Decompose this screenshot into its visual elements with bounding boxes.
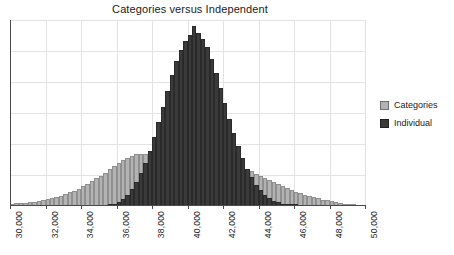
x-axis-tick-label: 50,000 — [369, 211, 379, 238]
x-axis-tick-mark — [188, 205, 189, 209]
gridline-vertical — [365, 20, 366, 206]
legend-label-categories: Categories — [394, 100, 438, 110]
x-axis-tick-mark — [46, 205, 47, 209]
x-axis-tick-label: 30,000 — [14, 211, 24, 238]
gridline-vertical — [294, 20, 295, 206]
legend-swatch-icon-categories — [380, 101, 389, 110]
x-axis-tick-label: 40,000 — [192, 211, 202, 238]
plot-area — [10, 20, 365, 206]
x-axis-tick-label: 34,000 — [85, 211, 95, 238]
legend-label-individual: Individual — [394, 118, 432, 128]
x-axis-tick-mark — [152, 205, 153, 209]
x-axis-tick-label: 48,000 — [334, 211, 344, 238]
x-axis-tick-label: 44,000 — [263, 211, 273, 238]
chart-container: Categories versus Independent 30,00032,0… — [0, 0, 454, 255]
x-axis-tick-mark — [117, 205, 118, 209]
x-axis-tick-mark — [10, 205, 11, 209]
legend-item-categories: Categories — [380, 96, 454, 114]
x-axis-tick-label: 36,000 — [121, 211, 131, 238]
x-axis-tick-mark — [223, 205, 224, 209]
gridline-vertical — [330, 20, 331, 206]
chart-title: Categories versus Independent — [0, 3, 380, 15]
y-axis-line — [10, 20, 11, 206]
x-axis-tick-mark — [81, 205, 82, 209]
gridline-vertical — [81, 20, 82, 206]
x-axis-tick-label: 42,000 — [227, 211, 237, 238]
x-axis-tick-label: 32,000 — [50, 211, 60, 238]
chart-legend: Categories Individual — [380, 96, 454, 132]
legend-swatch-icon-individual — [380, 119, 389, 128]
x-axis-tick-mark — [259, 205, 260, 209]
x-axis-tick-mark — [365, 205, 366, 209]
x-axis-tick-label: 38,000 — [156, 211, 166, 238]
x-axis-tick-label: 46,000 — [298, 211, 308, 238]
x-axis-tick-mark — [294, 205, 295, 209]
legend-item-individual: Individual — [380, 114, 454, 132]
gridline-vertical — [46, 20, 47, 206]
x-axis-tick-mark — [330, 205, 331, 209]
